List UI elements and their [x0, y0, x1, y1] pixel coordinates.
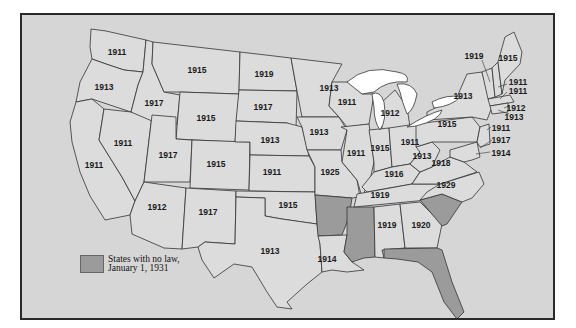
label-delaware: 1917 — [492, 135, 511, 145]
label-wisconsin: 1911 — [338, 97, 356, 107]
label-kansas: 1911 — [263, 167, 281, 177]
legend-text: States with no law, January 1, 1931 — [108, 255, 180, 273]
label-michigan: 1912 — [381, 108, 400, 118]
label-nebraska: 1913 — [261, 135, 280, 145]
label-tennessee: 1919 — [371, 190, 390, 200]
label-vermont: 1919 — [465, 51, 484, 61]
state-mississippi — [344, 207, 375, 262]
label-nevada: 1911 — [114, 138, 132, 148]
label-idaho: 1917 — [145, 98, 164, 108]
label-oregon: 1913 — [95, 82, 114, 92]
label-north-dakota: 1919 — [255, 69, 274, 79]
label-maryland: 1914 — [492, 148, 511, 158]
label-new-mexico: 1917 — [199, 207, 218, 217]
label-south-dakota: 1917 — [254, 102, 273, 112]
state-delaware-maryland — [450, 142, 480, 162]
state-florida — [384, 248, 464, 319]
label-georgia: 1920 — [412, 220, 431, 230]
label-illinois: 1911 — [347, 148, 365, 158]
label-north-carolina: 1929 — [437, 180, 456, 190]
label-connecticut: 1913 — [505, 112, 524, 122]
label-ohio: 1911 — [401, 137, 419, 147]
label-alabama: 1919 — [378, 220, 397, 230]
label-utah: 1917 — [159, 150, 178, 160]
label-missouri: 1925 — [321, 167, 340, 177]
label-minnesota: 1913 — [320, 83, 339, 93]
label-louisiana: 1914 — [318, 254, 337, 264]
state-arkansas — [315, 195, 352, 236]
map-frame: 1911 1913 1917 1915 1915 1911 1911 1917 … — [20, 13, 555, 320]
label-colorado: 1915 — [207, 159, 226, 169]
label-texas: 1913 — [261, 246, 280, 256]
label-maine: 1915 — [499, 53, 518, 63]
legend-swatch-no-law — [80, 255, 104, 273]
label-virginia: 1918 — [432, 158, 451, 168]
label-massachusetts: 1911 — [509, 86, 527, 96]
label-kentucky: 1916 — [385, 169, 404, 179]
state-new-mexico — [182, 188, 236, 249]
label-california: 1911 — [85, 160, 103, 170]
label-new-jersey: 1911 — [492, 123, 510, 133]
label-pennsylvania: 1915 — [438, 119, 457, 129]
label-montana: 1915 — [188, 65, 207, 75]
label-iowa: 1913 — [310, 127, 329, 137]
label-arizona: 1912 — [148, 202, 167, 212]
map-legend: States with no law, January 1, 1931 — [80, 255, 180, 273]
label-west-virginia: 1913 — [413, 151, 432, 161]
label-new-york: 1913 — [454, 91, 473, 101]
label-wyoming: 1915 — [197, 113, 216, 123]
label-washington: 1911 — [108, 47, 126, 57]
label-indiana: 1915 — [371, 143, 390, 153]
state-kansas — [249, 155, 315, 192]
legend-line-2: January 1, 1931 — [108, 264, 180, 273]
label-oklahoma: 1915 — [279, 200, 298, 210]
